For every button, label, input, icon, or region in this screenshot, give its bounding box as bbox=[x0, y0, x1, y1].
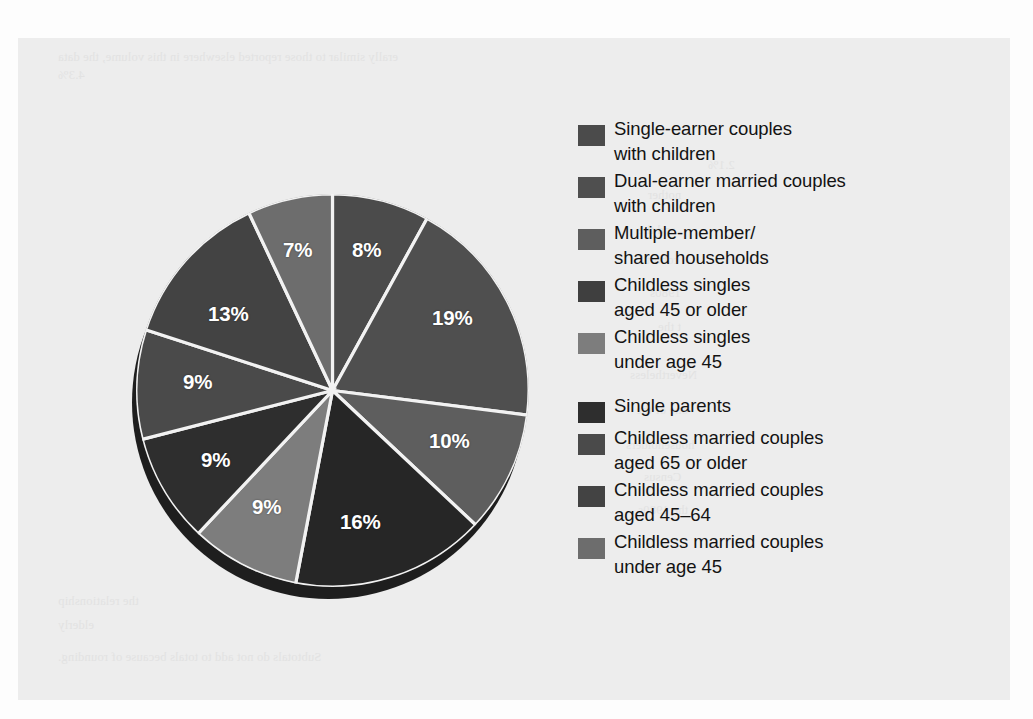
legend-item-label: Dual-earner married couples with childre… bbox=[614, 168, 846, 218]
legend-item-label: Childless singles under age 45 bbox=[614, 324, 750, 374]
legend-item: Multiple-member/ shared households bbox=[578, 220, 998, 270]
legend-item-label: Childless married couples aged 45–64 bbox=[614, 477, 823, 527]
legend-item: Childless married couples aged 45–64 bbox=[578, 477, 998, 527]
legend-color-swatch bbox=[578, 229, 605, 250]
legend-item: Childless married couples aged 65 or old… bbox=[578, 425, 998, 475]
legend-item-label: Childless singles aged 45 or older bbox=[614, 272, 750, 322]
legend-item: Childless singles under age 45 bbox=[578, 324, 998, 374]
legend-item-label: Childless married couples under age 45 bbox=[614, 529, 823, 579]
legend: Single-earner couples with childrenDual-… bbox=[578, 116, 998, 581]
pie-slice-percent-label: 7% bbox=[283, 238, 312, 262]
legend-color-swatch bbox=[578, 486, 605, 507]
pie-chart: 8%19%10%16%9%9%9%13%7% bbox=[128, 190, 553, 610]
pie-slice-percent-label: 9% bbox=[201, 448, 230, 472]
legend-item-label: Single-earner couples with children bbox=[614, 116, 792, 166]
scanned-page: erally similar to those reported elsewhe… bbox=[18, 38, 1010, 700]
legend-item: Dual-earner married couples with childre… bbox=[578, 168, 998, 218]
pie-slice-percent-label: 13% bbox=[208, 302, 248, 326]
legend-item: Childless married couples under age 45 bbox=[578, 529, 998, 579]
bleed-through-text: 4.3% bbox=[58, 68, 85, 83]
pie-slice-percent-label: 9% bbox=[252, 495, 281, 519]
pie-slice-percent-label: 16% bbox=[340, 510, 380, 534]
legend-color-swatch bbox=[578, 281, 605, 302]
pie-slice-percent-label: 8% bbox=[352, 238, 381, 262]
legend-item: Single parents bbox=[578, 393, 998, 423]
legend-item: Single-earner couples with children bbox=[578, 116, 998, 166]
legend-color-swatch bbox=[578, 538, 605, 559]
legend-color-swatch bbox=[578, 402, 605, 423]
legend-item-label: Multiple-member/ shared households bbox=[614, 220, 769, 270]
pie-slice-percent-label: 19% bbox=[432, 306, 472, 330]
legend-color-swatch bbox=[578, 125, 605, 146]
legend-item: Childless singles aged 45 or older bbox=[578, 272, 998, 322]
pie-slice-percent-label: 9% bbox=[183, 370, 212, 394]
bleed-through-text: elderly bbox=[58, 618, 94, 633]
pie-slice-percent-label: 10% bbox=[429, 429, 469, 453]
legend-item-label: Childless married couples aged 65 or old… bbox=[614, 425, 823, 475]
legend-item-label: Single parents bbox=[614, 393, 731, 418]
bleed-through-text: Subtotals do not add to totals because o… bbox=[58, 650, 321, 665]
bleed-through-text: erally similar to those reported elsewhe… bbox=[58, 50, 398, 65]
legend-color-swatch bbox=[578, 177, 605, 198]
legend-color-swatch bbox=[578, 434, 605, 455]
bleed-through-text: the relationship bbox=[58, 594, 139, 609]
legend-color-swatch bbox=[578, 333, 605, 354]
